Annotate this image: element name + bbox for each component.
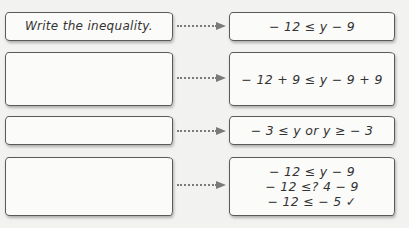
step-3-work-box: − 3 ≤ y or y ≥ − 3 [229, 116, 395, 145]
step-2-description-box[interactable] [5, 52, 173, 106]
arrowhead-icon [216, 127, 226, 135]
dotted-line [177, 25, 217, 27]
arrowhead-icon [216, 22, 226, 30]
step-1-work-box: − 12 ≤ y − 9 [229, 12, 395, 41]
step-1-work-line: − 12 ≤ y − 9 [269, 19, 355, 34]
step-2-work-line: − 12 + 9 ≤ y − 9 + 9 [241, 72, 382, 87]
step-4-description-box[interactable] [5, 157, 173, 216]
step-2-arrow [177, 74, 227, 82]
dotted-line [177, 184, 217, 186]
step-4-work-line-3: − 12 ≤ − 5 ✓ [267, 194, 356, 209]
arrowhead-icon [216, 181, 226, 189]
step-4-work-line-1: − 12 ≤ y − 9 [269, 164, 355, 179]
step-1-arrow [177, 22, 227, 30]
step-3-work-line: − 3 ≤ y or y ≥ − 3 [251, 123, 374, 138]
step-3-description-box[interactable] [5, 116, 173, 145]
step-1-description: Write the inequality. [25, 19, 153, 34]
step-4-work-box: − 12 ≤ y − 9 − 12 ≤? 4 − 9 − 12 ≤ − 5 ✓ [229, 157, 395, 216]
step-3-arrow [177, 127, 227, 135]
dotted-line [177, 130, 217, 132]
step-4-work-line-2: − 12 ≤? 4 − 9 [265, 179, 359, 194]
step-4-arrow [177, 181, 227, 189]
step-1-description-box: Write the inequality. [5, 12, 173, 41]
dotted-line [177, 77, 217, 79]
step-2-work-box: − 12 + 9 ≤ y − 9 + 9 [229, 52, 395, 106]
arrowhead-icon [216, 74, 226, 82]
